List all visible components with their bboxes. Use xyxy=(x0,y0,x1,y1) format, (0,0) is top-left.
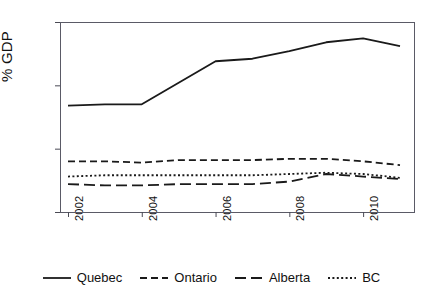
plot-area xyxy=(0,0,423,298)
series-line-quebec xyxy=(68,38,400,105)
legend-label: BC xyxy=(362,271,380,284)
legend-label: Alberta xyxy=(269,271,310,284)
chart-legend: QuebecOntarioAlbertaBC xyxy=(0,271,423,284)
legend-item-quebec[interactable]: Quebec xyxy=(43,271,123,284)
legend-key-dotted-icon xyxy=(328,273,356,283)
series-line-ontario xyxy=(68,159,400,165)
legend-label: Quebec xyxy=(77,271,123,284)
legend-key-dashed-icon xyxy=(140,273,168,283)
legend-label: Ontario xyxy=(174,271,217,284)
legend-key-longdash-icon xyxy=(235,273,263,283)
legend-item-alberta[interactable]: Alberta xyxy=(235,271,310,284)
chart-figure: % GDP 0.511.5 20022004200620082010 Quebe… xyxy=(0,0,423,298)
series-line-bc xyxy=(68,173,400,178)
legend-item-ontario[interactable]: Ontario xyxy=(140,271,217,284)
legend-key-solid-icon xyxy=(43,273,71,283)
legend-item-bc[interactable]: BC xyxy=(328,271,380,284)
